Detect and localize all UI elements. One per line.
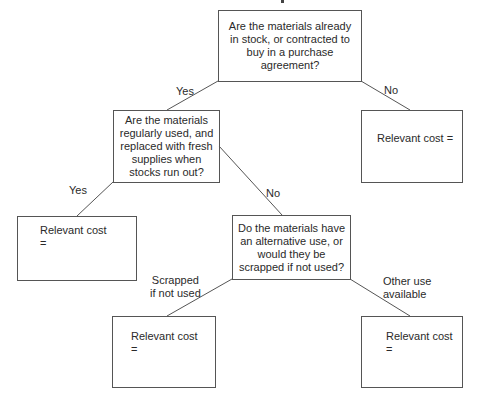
question-text: Are the materials already in stock, or c…	[226, 20, 354, 72]
edge-label-no-q2: No	[266, 187, 280, 200]
connector-q2-q3	[219, 146, 282, 215]
result-text: Relevant cost =	[377, 132, 453, 145]
result-text: Relevant cost =	[40, 224, 107, 250]
result-node-regularly-used: Relevant cost =	[17, 216, 137, 281]
edge-label-yes-q2: Yes	[69, 184, 87, 197]
result-node-scrapped: Relevant cost =	[112, 316, 216, 388]
result-node-not-in-stock: Relevant cost =	[361, 110, 463, 183]
question-node-alternative-use: Do the materials have an alternative use…	[232, 215, 351, 280]
question-node-stock-or-contracted: Are the materials already in stock, or c…	[218, 10, 362, 82]
edge-label-scrapped: Scrapped if not used	[150, 274, 201, 300]
question-node-regularly-used: Are the materials regularly used, and re…	[113, 110, 220, 183]
edge-label-other-use: Other use available	[383, 275, 431, 301]
edge-label-yes-q1: Yes	[176, 85, 194, 98]
question-text: Do the materials have an alternative use…	[237, 222, 346, 274]
result-text: Relevant cost =	[131, 330, 198, 356]
decision-tree-diagram: Are the materials already in stock, or c…	[0, 0, 481, 403]
edge-label-no-q1: No	[384, 84, 398, 97]
question-text: Are the materials regularly used, and re…	[118, 114, 215, 179]
result-text: Relevant cost =	[386, 330, 453, 356]
result-node-other-use: Relevant cost =	[361, 316, 463, 388]
